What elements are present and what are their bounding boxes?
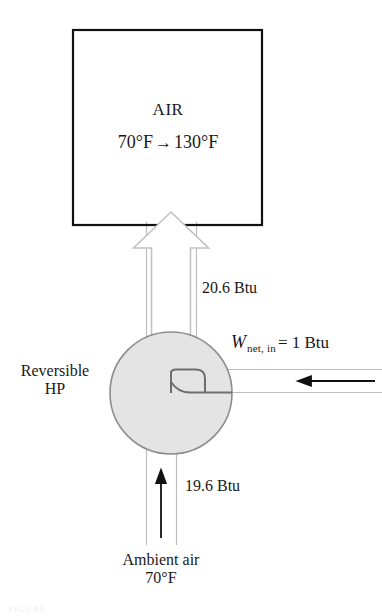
source-label: Ambient air70°F bbox=[81, 551, 241, 588]
air-box bbox=[73, 30, 262, 225]
air-temp-out: 130°F bbox=[174, 132, 218, 152]
device-label-line2: HP bbox=[2, 380, 108, 398]
hot-side-duct-lines bbox=[147, 222, 197, 392]
right-arrow-icon: → bbox=[153, 133, 174, 152]
diagram-vector-layer bbox=[0, 0, 382, 616]
work-value: = 1 Btu bbox=[276, 333, 329, 352]
air-temperature-change: 70°F→130°F bbox=[73, 132, 263, 153]
air-temp-in: 70°F bbox=[118, 132, 153, 152]
work-duct-lines bbox=[186, 370, 382, 393]
work-subscript: net, in bbox=[246, 342, 276, 354]
work-input-label: Wnet, in= 1 Btu bbox=[231, 332, 329, 354]
source-label-line1: Ambient air bbox=[123, 551, 200, 568]
heat-pump-circle bbox=[110, 332, 232, 454]
cold-side-duct-lines bbox=[147, 392, 177, 545]
internal-circuit-hook bbox=[171, 370, 232, 394]
device-label-line1: Reversible bbox=[21, 362, 89, 379]
heat-out-hollow-arrow bbox=[134, 212, 209, 338]
work-in-arrow bbox=[298, 376, 375, 386]
heat-out-label: 20.6 Btu bbox=[202, 279, 257, 297]
heat-pump-diagram: AIR 70°F→130°F 20.6 Btu 19.6 Btu Wnet, i… bbox=[0, 0, 382, 616]
device-label: ReversibleHP bbox=[2, 362, 108, 399]
heat-in-arrow bbox=[156, 470, 166, 538]
caption-remnant: FIGURE bbox=[8, 604, 47, 614]
work-symbol: W bbox=[231, 332, 246, 352]
source-label-line2: 70°F bbox=[81, 569, 241, 587]
heat-in-label: 19.6 Btu bbox=[185, 477, 240, 495]
air-box-title: AIR bbox=[73, 100, 263, 120]
